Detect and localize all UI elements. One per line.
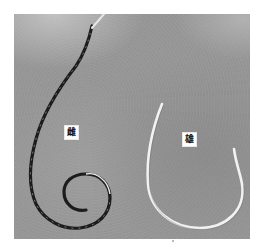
female-label: 雌 [64, 125, 79, 140]
worm-photograph: 雌 雄 [14, 14, 250, 239]
male-label: 雄 [182, 132, 197, 147]
speck [172, 240, 174, 242]
worm-illustration [14, 14, 250, 239]
